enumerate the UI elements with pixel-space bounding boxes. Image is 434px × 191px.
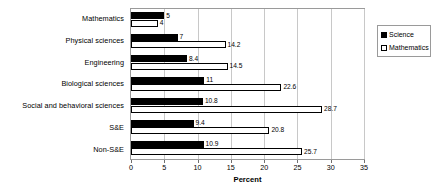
category-axis-labels: MathematicsPhysical sciencesEngineeringB…	[0, 8, 128, 160]
category-label: Physical sciences	[66, 37, 124, 44]
bar-science	[131, 34, 178, 41]
category-label-cell: S&E	[0, 117, 128, 139]
legend-swatch-icon	[381, 32, 387, 38]
bar-row: 28.7	[131, 106, 364, 113]
bar-science	[131, 98, 203, 105]
bar-row: 7	[131, 34, 364, 41]
x-axis: 05101520253035	[130, 160, 365, 176]
bar-group: 1122.6	[131, 73, 364, 94]
bar-value-label: 25.7	[304, 149, 317, 156]
bar-row: 14.5	[131, 63, 364, 70]
bar-value-label: 14.2	[228, 42, 241, 49]
bar-value-label: 20.8	[271, 127, 284, 134]
bar-row: 22.6	[131, 84, 364, 91]
bar-value-label: 28.7	[324, 106, 337, 113]
legend-label: Mathematics	[389, 44, 429, 51]
category-label-cell: Mathematics	[0, 8, 128, 30]
bar-mathematics	[131, 20, 158, 27]
bar-mathematics	[131, 41, 226, 48]
bar-value-label: 11	[206, 77, 213, 84]
bar-value-label: 10.8	[205, 98, 218, 105]
bar-mathematics	[131, 127, 269, 134]
bar-group: 10.925.7	[131, 138, 364, 159]
bar-value-label: 8.4	[189, 56, 198, 63]
bar-chart: MathematicsPhysical sciencesEngineeringB…	[0, 0, 434, 191]
chart-legend: ScienceMathematics	[377, 25, 431, 57]
x-tick-label: 5	[162, 164, 166, 171]
bar-value-label: 4	[160, 20, 164, 27]
bar-row: 10.9	[131, 141, 364, 148]
bar-mathematics	[131, 148, 302, 155]
category-label: Non-S&E	[93, 146, 124, 153]
legend-item: Mathematics	[381, 44, 427, 51]
bar-mathematics	[131, 106, 322, 113]
bar-row: 25.7	[131, 148, 364, 155]
x-tick-label: 15	[227, 164, 235, 171]
bar-science	[131, 55, 187, 62]
bar-group: 9.420.8	[131, 116, 364, 137]
category-label: Mathematics	[82, 15, 124, 22]
bar-value-label: 5	[166, 13, 170, 20]
x-axis-title: Percent	[130, 176, 365, 184]
bar-row: 11	[131, 77, 364, 84]
bar-row: 5	[131, 12, 364, 19]
x-tick-label: 0	[129, 164, 133, 171]
bar-group: 10.828.7	[131, 95, 364, 116]
bar-row: 8.4	[131, 55, 364, 62]
bar-group: 714.2	[131, 30, 364, 51]
category-label-cell: Biological sciences	[0, 73, 128, 95]
x-tick-label: 10	[194, 164, 202, 171]
category-label-cell: Physical sciences	[0, 30, 128, 52]
category-label: Biological sciences	[61, 80, 124, 87]
bar-value-label: 14.5	[230, 63, 243, 70]
bar-group: 54	[131, 9, 364, 30]
bar-row: 4	[131, 20, 364, 27]
category-label-cell: Non-S&E	[0, 138, 128, 160]
bar-mathematics	[131, 84, 281, 91]
bar-value-label: 7	[180, 34, 184, 41]
bar-value-label: 9.4	[196, 120, 205, 127]
bars-layer: 54714.28.414.51122.610.828.79.420.810.92…	[131, 9, 364, 159]
bar-value-label: 22.6	[283, 84, 296, 91]
bar-value-label: 10.9	[206, 141, 219, 148]
category-label: Engineering	[85, 59, 125, 66]
bar-row: 9.4	[131, 120, 364, 127]
x-tick-label: 25	[293, 164, 301, 171]
plot-area: 54714.28.414.51122.610.828.79.420.810.92…	[130, 8, 365, 160]
bar-group: 8.414.5	[131, 52, 364, 73]
bar-science	[131, 120, 194, 127]
category-label-cell: Social and behavioral sciences	[0, 95, 128, 117]
x-tick-label: 20	[260, 164, 268, 171]
bar-row: 14.2	[131, 41, 364, 48]
bar-mathematics	[131, 63, 228, 70]
bar-science	[131, 141, 204, 148]
category-label: Social and behavioral sciences	[22, 102, 124, 109]
x-tick-label: 35	[360, 164, 368, 171]
gridline	[364, 9, 365, 159]
x-tick-label: 30	[327, 164, 335, 171]
category-label-cell: Engineering	[0, 51, 128, 73]
bar-row: 20.8	[131, 127, 364, 134]
legend-item: Science	[381, 31, 427, 38]
legend-swatch-icon	[381, 45, 387, 51]
legend-label: Science	[389, 31, 414, 38]
category-label: S&E	[109, 124, 124, 131]
bar-science	[131, 77, 204, 84]
